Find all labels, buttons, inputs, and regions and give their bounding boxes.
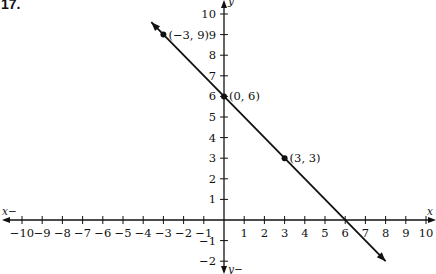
y-tick-label: 1 bbox=[209, 192, 216, 206]
y-tick-label: −2 bbox=[199, 254, 216, 268]
x-tick-label: −8 bbox=[54, 226, 71, 240]
x-axis-negative-label: x− bbox=[2, 205, 17, 217]
y-tick-label: 8 bbox=[209, 48, 216, 62]
x-tick-label: 1 bbox=[241, 226, 248, 240]
data-point-label: (3, 3) bbox=[290, 151, 321, 165]
data-point bbox=[282, 155, 288, 161]
y-tick-label: 4 bbox=[209, 131, 216, 145]
x-tick-label: 3 bbox=[281, 226, 288, 240]
y-axis-bottom-arrow-icon bbox=[221, 266, 227, 274]
y-axis-negative-label: y− bbox=[227, 263, 243, 274]
y-tick-label: 5 bbox=[209, 110, 216, 124]
y-tick-label: 9 bbox=[209, 28, 216, 42]
x-tick-label: −7 bbox=[74, 226, 91, 240]
data-point bbox=[160, 32, 166, 38]
x-tick-label: 2 bbox=[261, 226, 268, 240]
x-tick-label: −4 bbox=[135, 226, 152, 240]
x-tick-label: −2 bbox=[175, 226, 192, 240]
data-point bbox=[221, 93, 227, 99]
x-tick-label: −10 bbox=[10, 226, 34, 240]
coordinate-graph: 17. −10−9−8−7−6−5−4−3−2−112345678910−2−1… bbox=[0, 0, 436, 274]
x-tick-label: −9 bbox=[34, 226, 51, 240]
problem-number: 17. bbox=[1, 0, 20, 12]
y-tick-label: 3 bbox=[209, 151, 216, 165]
x-axis-positive-label: x bbox=[427, 205, 433, 217]
x-axis-left-arrow-icon bbox=[2, 217, 10, 223]
x-tick-label: −5 bbox=[115, 226, 132, 240]
x-tick-label: 4 bbox=[301, 226, 308, 240]
x-tick-label: 10 bbox=[419, 226, 434, 240]
graph-canvas: −10−9−8−7−6−5−4−3−2−112345678910−2−11234… bbox=[0, 0, 436, 274]
data-point-label: (0, 6) bbox=[229, 89, 260, 103]
y-axis-top-arrow-icon bbox=[221, 0, 227, 8]
y-tick-label: 10 bbox=[201, 7, 216, 21]
y-axis-positive-label: y bbox=[227, 0, 235, 7]
x-axis-right-arrow-icon bbox=[428, 217, 436, 223]
x-tick-label: 5 bbox=[321, 226, 328, 240]
x-tick-label: −3 bbox=[155, 226, 172, 240]
data-point-label: (−3, 9) bbox=[168, 28, 209, 42]
y-tick-label: 6 bbox=[209, 89, 216, 103]
x-tick-label: 6 bbox=[342, 226, 349, 240]
y-tick-label: −1 bbox=[199, 234, 216, 248]
x-tick-label: 9 bbox=[402, 226, 409, 240]
x-tick-label: 8 bbox=[382, 226, 389, 240]
x-tick-label: −6 bbox=[94, 226, 111, 240]
y-tick-label: 2 bbox=[209, 172, 216, 186]
